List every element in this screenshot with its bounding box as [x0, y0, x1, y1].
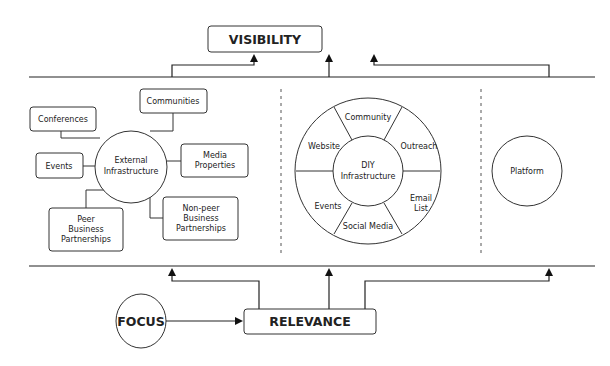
peer-label-3: Partnerships: [61, 235, 111, 244]
bottom-arrows: [172, 272, 549, 309]
external-infrastructure-cluster: External Infrastructure Conferences Comm…: [30, 89, 248, 251]
diy-email-label-1: Email: [410, 194, 432, 203]
conferences-label: Conferences: [38, 115, 88, 124]
platform-node: Platform: [492, 136, 562, 206]
nonpeer-label-2: Business: [183, 214, 218, 223]
peer-label-1: Peer: [77, 215, 95, 224]
platform-label: Platform: [510, 167, 544, 176]
visibility-label: VISIBILITY: [229, 32, 302, 47]
diy-infrastructure-wheel: DIY Infrastructure Community Outreach Em…: [295, 98, 441, 244]
diy-label-2: Infrastructure: [341, 172, 396, 181]
relevance-label: RELEVANCE: [269, 314, 350, 329]
focus-node: FOCUS: [116, 294, 166, 348]
focus-label: FOCUS: [117, 314, 165, 329]
diy-email-label-2: List: [414, 204, 428, 213]
relevance-box: RELEVANCE: [244, 309, 376, 334]
diy-social-media-label: Social Media: [343, 222, 393, 231]
nonpeer-label-3: Partnerships: [176, 224, 226, 233]
media-label-2: Properties: [195, 161, 235, 170]
visibility-box: VISIBILITY: [208, 26, 322, 52]
diy-inner-circle: [333, 136, 403, 206]
peer-label-2: Business: [68, 225, 103, 234]
external-label-2: Infrastructure: [104, 167, 159, 176]
top-arrows: [172, 58, 549, 77]
nonpeer-label-1: Non-peer: [182, 204, 220, 213]
media-label-1: Media: [203, 151, 227, 160]
diy-outreach-label: Outreach: [401, 142, 438, 151]
diy-community-label: Community: [345, 113, 392, 122]
diy-website-label: Website: [308, 142, 340, 151]
diy-events-label: Events: [314, 202, 341, 211]
diy-label-1: DIY: [361, 161, 375, 170]
external-label-1: External: [114, 156, 147, 165]
strategy-diagram: VISIBILITY External Infrastructure Confe…: [0, 0, 610, 366]
events-label: Events: [45, 162, 72, 171]
communities-label: Communities: [147, 97, 200, 106]
